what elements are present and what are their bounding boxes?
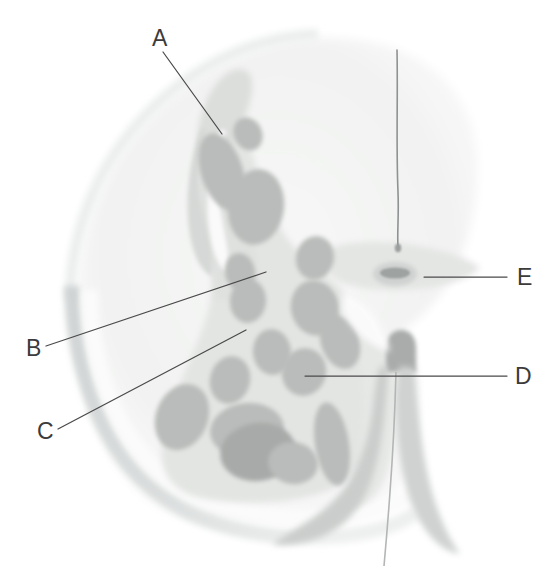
- figure-root: ABCDE: [0, 0, 555, 574]
- hook-bulb: [386, 330, 416, 372]
- crypt-e-spot: [373, 262, 417, 286]
- label-text-a[interactable]: A: [152, 25, 168, 51]
- label-text-b[interactable]: B: [26, 335, 42, 361]
- label-text-e[interactable]: E: [517, 264, 533, 290]
- label-text-d[interactable]: D: [515, 363, 532, 389]
- anatomical-diagram-svg: ABCDE: [0, 0, 555, 574]
- crypt-e-lumen: [380, 268, 410, 279]
- label-text-c[interactable]: C: [37, 418, 54, 444]
- septum-filament-foot: [395, 244, 401, 252]
